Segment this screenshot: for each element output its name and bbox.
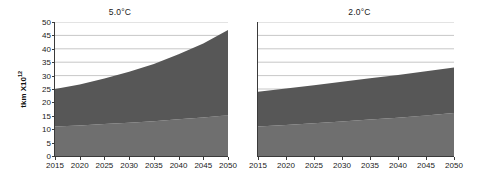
x-tick-label: 2035 — [361, 161, 379, 170]
x-tick-mark — [286, 157, 287, 160]
y-tick-mark — [52, 89, 55, 90]
chart-panel-left: 5.0°C 0510152025303540455020152020202520… — [0, 0, 240, 182]
x-tick-label: 2050 — [445, 161, 463, 170]
y-tick-mark — [52, 62, 55, 63]
chart-title-left: 5.0°C — [0, 7, 240, 17]
y-tick-mark — [52, 35, 55, 36]
plot-area — [258, 22, 454, 156]
y-tick-label: 40 — [42, 44, 51, 53]
x-tick-mark — [179, 157, 180, 160]
x-tick-mark — [426, 157, 427, 160]
plot-canvas — [55, 22, 228, 156]
x-tick-mark — [398, 157, 399, 160]
y-axis-label: tkm X1012 — [17, 70, 28, 107]
y-tick-label: 20 — [42, 98, 51, 107]
plot-area — [55, 22, 228, 156]
y-tick-label: 5 — [47, 138, 51, 147]
x-tick-label: 2030 — [333, 161, 351, 170]
y-axis-line — [257, 22, 258, 157]
y-axis-label-exponent: 12 — [17, 70, 23, 76]
chart-panel-right: 2.0°C 20152020202520302035204020452050 — [240, 0, 479, 182]
y-tick-label: 50 — [42, 18, 51, 27]
y-axis-label-text: tkm X10 — [18, 77, 27, 108]
plot-canvas — [258, 22, 454, 156]
x-tick-label: 2040 — [389, 161, 407, 170]
y-tick-label: 30 — [42, 71, 51, 80]
x-tick-label: 2035 — [145, 161, 163, 170]
y-tick-mark — [52, 116, 55, 117]
y-tick-label: 45 — [42, 31, 51, 40]
x-tick-mark — [203, 157, 204, 160]
x-tick-label: 2045 — [417, 161, 435, 170]
x-tick-label: 2040 — [170, 161, 188, 170]
y-tick-mark — [52, 129, 55, 130]
x-tick-label: 2050 — [219, 161, 237, 170]
y-tick-mark — [52, 143, 55, 144]
y-tick-label: 0 — [47, 152, 51, 161]
x-tick-mark — [55, 157, 56, 160]
y-tick-mark — [52, 49, 55, 50]
area-series-upper-band — [55, 30, 228, 126]
x-tick-mark — [154, 157, 155, 160]
y-tick-mark — [52, 102, 55, 103]
x-tick-label: 2015 — [46, 161, 64, 170]
y-tick-mark — [52, 76, 55, 77]
x-tick-mark — [129, 157, 130, 160]
x-tick-mark — [454, 157, 455, 160]
x-tick-mark — [80, 157, 81, 160]
x-tick-label: 2025 — [305, 161, 323, 170]
x-tick-label: 2030 — [120, 161, 138, 170]
x-tick-label: 2045 — [194, 161, 212, 170]
y-tick-label: 15 — [42, 111, 51, 120]
y-tick-label: 25 — [42, 85, 51, 94]
x-tick-mark — [342, 157, 343, 160]
x-tick-label: 2020 — [71, 161, 89, 170]
y-tick-label: 35 — [42, 58, 51, 67]
x-tick-mark — [228, 157, 229, 160]
x-tick-label: 2015 — [249, 161, 267, 170]
x-tick-mark — [314, 157, 315, 160]
x-tick-label: 2025 — [96, 161, 114, 170]
figure-container: 5.0°C 0510152025303540455020152020202520… — [0, 0, 479, 182]
x-tick-mark — [370, 157, 371, 160]
x-tick-mark — [258, 157, 259, 160]
x-tick-label: 2020 — [277, 161, 295, 170]
y-tick-mark — [52, 22, 55, 23]
x-tick-mark — [104, 157, 105, 160]
chart-title-right: 2.0°C — [240, 7, 479, 17]
y-tick-label: 10 — [42, 125, 51, 134]
